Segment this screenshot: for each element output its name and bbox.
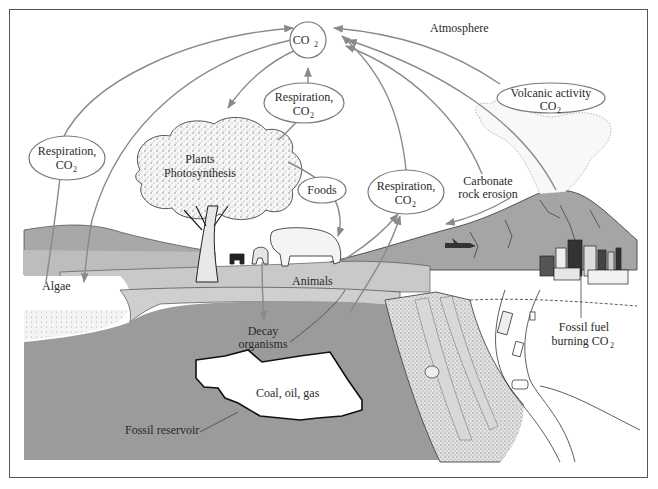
respiration-algae-node: Respiration, CO 2 <box>29 136 105 180</box>
volcanic-line2: CO <box>540 99 557 113</box>
respiration-plants-line1: Respiration, <box>275 90 333 104</box>
cliff-boulder <box>425 366 439 378</box>
co2-label: CO <box>293 33 310 47</box>
animals-label: Animals <box>292 274 333 288</box>
carbon-cycle-diagram: CO 2 Atmosphere Respiration, CO 2 Respir… <box>0 0 658 489</box>
respiration-animals-subscript: 2 <box>412 200 416 209</box>
burning-co2-label: burning CO <box>552 334 609 348</box>
respiration-plants-node: Respiration, CO 2 <box>264 83 344 123</box>
respiration-animals-line1: Respiration, <box>377 179 435 193</box>
respiration-animals-line2: CO <box>395 193 412 207</box>
volcanic-subscript: 2 <box>557 106 561 115</box>
rock-erosion-label: rock erosion <box>458 187 518 201</box>
respiration-plants-subscript: 2 <box>310 111 314 120</box>
volcanic-line1: Volcanic activity <box>511 86 592 100</box>
co2-subscript: 2 <box>314 40 318 49</box>
foods-node: Foods <box>298 177 346 203</box>
respiration-plants-line2: CO <box>293 104 310 118</box>
algae-label: Algae <box>42 279 71 293</box>
atmosphere-label: Atmosphere <box>430 21 489 35</box>
photosynthesis-label: Photosynthesis <box>164 166 236 180</box>
co2-node: CO 2 <box>290 22 326 58</box>
respiration-algae-line1: Respiration, <box>38 144 96 158</box>
respiration-algae-subscript: 2 <box>73 165 77 174</box>
fossil-reservoir-label: Fossil reservoir <box>125 423 199 437</box>
organisms-label: organisms <box>238 337 287 351</box>
carbonate-label: Carbonate <box>463 174 512 188</box>
foods-label: Foods <box>307 183 337 197</box>
fossil-fuel-label: Fossil fuel <box>559 320 610 334</box>
coal-oil-gas-label: Coal, oil, gas <box>256 386 320 400</box>
burning-co2-subscript: 2 <box>610 341 614 350</box>
plants-label: Plants <box>185 152 215 166</box>
respiration-algae-line2: CO <box>56 158 73 172</box>
decay-label: Decay <box>248 324 279 338</box>
respiration-animals-node: Respiration, CO 2 <box>368 170 444 214</box>
